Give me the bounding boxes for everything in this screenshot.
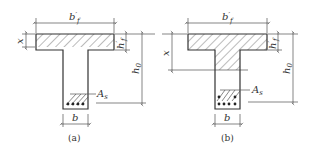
steel-area-label: As bbox=[251, 84, 263, 97]
steel-zone-hatch bbox=[66, 94, 96, 105]
steel-zone-hatch bbox=[217, 90, 250, 101]
compression-depth-label: x bbox=[14, 38, 25, 44]
compression-depth-dimension: x bbox=[160, 32, 187, 72]
web-width-label: b bbox=[72, 112, 78, 123]
panel-a: As b′f x h′f h0 bbox=[14, 11, 155, 143]
panel-b: As b′f x h′f h0 bbox=[160, 11, 298, 143]
flange-width-dimension: b′f bbox=[34, 11, 116, 33]
web-width-dimension: b bbox=[61, 112, 90, 127]
flange-width-dimension: b′f bbox=[186, 11, 269, 33]
compression-depth-dimension: x bbox=[14, 32, 35, 49]
flange-compression-zone bbox=[36, 34, 114, 47]
rebar-dots bbox=[67, 103, 85, 106]
caption-a: (a) bbox=[68, 133, 80, 143]
effective-depth-label: h0 bbox=[281, 63, 294, 74]
effective-depth-label: h0 bbox=[130, 63, 143, 74]
compression-zone bbox=[188, 34, 267, 70]
compression-depth-label: x bbox=[160, 50, 171, 56]
flange-thickness-dimension: h′f bbox=[267, 32, 282, 52]
web-width-dimension: b bbox=[213, 112, 242, 127]
steel-area-label: As bbox=[96, 88, 108, 101]
web-width-label: b bbox=[224, 112, 230, 123]
caption-b: (b) bbox=[221, 133, 234, 143]
flange-thickness-dimension: h′f bbox=[115, 32, 130, 52]
t-beam-diagram: As b′f x h′f h0 bbox=[0, 0, 314, 153]
